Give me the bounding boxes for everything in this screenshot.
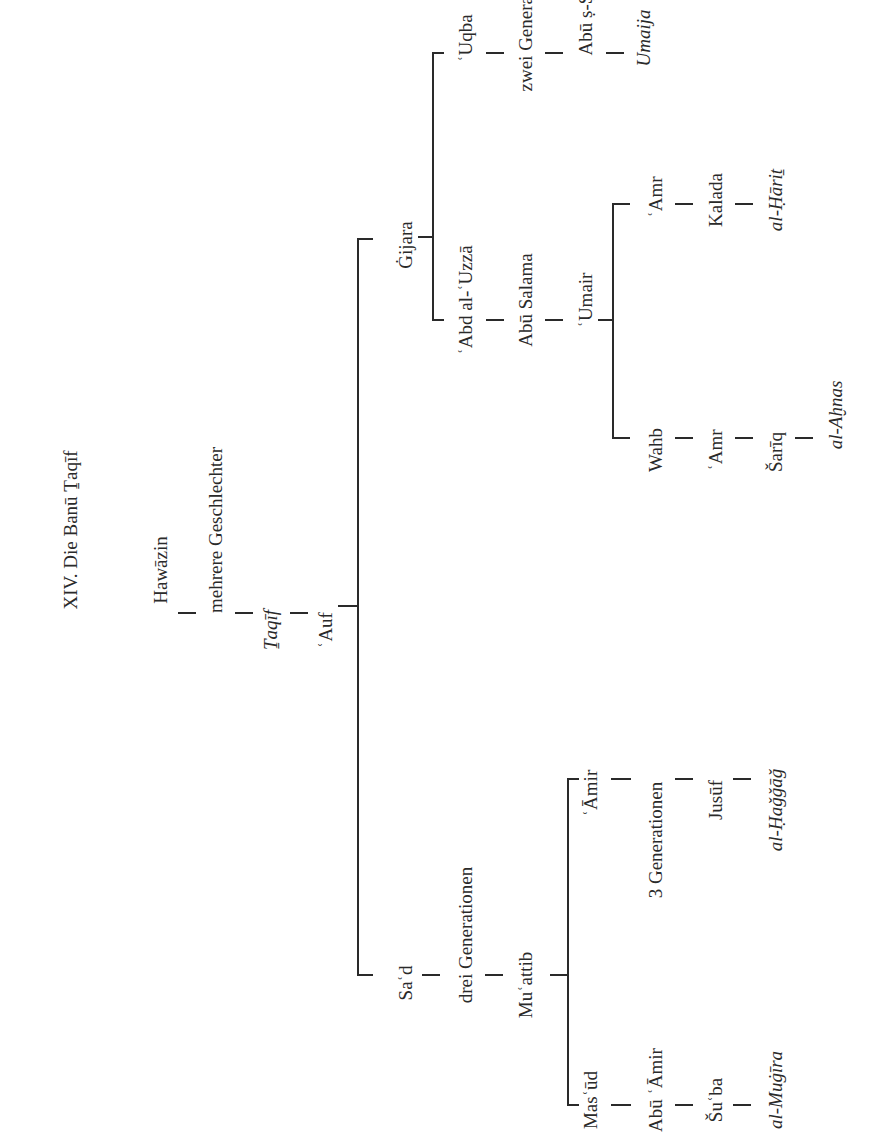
connector: [612, 203, 630, 205]
umair-bracket: [612, 203, 614, 438]
node-amr-2: ʿAmr: [706, 429, 725, 470]
node-zwei-generationen: zwei Generationen: [516, 0, 535, 91]
connector: [290, 612, 308, 614]
node-jusuf: Jusūf: [706, 780, 725, 820]
connector: [545, 52, 563, 54]
connector: [598, 319, 612, 321]
diagram-title: XIV. Die Banū Ṯaqīf: [61, 450, 80, 609]
connector: [675, 437, 693, 439]
node-hawazin: Hawāzin: [151, 536, 170, 604]
node-kalada: Kalada: [706, 173, 725, 227]
node-uqba: ʿUqba: [456, 14, 475, 61]
node-umair: ʿUmair: [576, 273, 595, 328]
connector: [357, 238, 373, 240]
node-al-haggag: al-Ḥaǧǧāǧ: [766, 769, 785, 851]
connector: [357, 974, 373, 976]
node-amr-1: ʿAmr: [646, 176, 665, 217]
node-sariq: Šarīq: [766, 432, 785, 472]
connector: [795, 437, 813, 439]
node-gijara: Ġijara: [396, 221, 415, 268]
connector: [422, 974, 440, 976]
node-al-mugira: al-Muġīra: [766, 1051, 785, 1129]
node-drei-generationen: drei Generationen: [456, 867, 475, 1004]
connector: [611, 1104, 631, 1106]
connector: [675, 778, 693, 780]
node-sad: Saʿd: [396, 966, 415, 1001]
node-al-ahnas: al-Aḫnas: [826, 381, 845, 450]
connector: [486, 52, 504, 54]
node-mehrere-geschlechter: mehrere Geschlechter: [206, 447, 225, 613]
connector: [432, 52, 444, 54]
connector: [338, 605, 357, 607]
gijara-bracket: [432, 52, 434, 320]
connector: [611, 778, 631, 780]
node-auf: ʿAuf: [316, 612, 335, 648]
connector: [675, 1104, 693, 1106]
connector: [486, 319, 504, 321]
auf-bracket: [357, 238, 359, 975]
node-al-harit: al-Ḥāriṯ: [766, 169, 785, 231]
node-amir: ʿĀmir: [581, 770, 600, 816]
node-abu-amir: Abū ʿĀmir: [646, 1048, 665, 1132]
connector: [733, 778, 751, 780]
connector: [735, 437, 753, 439]
connector: [545, 319, 563, 321]
connector: [567, 1104, 579, 1106]
node-umaija: Umaija: [634, 10, 653, 67]
connector: [550, 974, 567, 976]
node-abd-al-uzza: ʿAbd al-ʿUzzā: [456, 245, 475, 354]
connector: [235, 612, 253, 614]
connector: [418, 236, 432, 238]
node-abu-salama: Abū Salama: [516, 253, 535, 346]
node-suba: Šuʿba: [706, 1078, 725, 1122]
node-masud: Masʿūd: [581, 1071, 600, 1129]
node-abu-s-salt: Abū ṣ-Ṣalt: [576, 0, 595, 55]
node-taqif: Ṯaqīf: [261, 610, 280, 650]
connector: [485, 974, 503, 976]
connector: [178, 612, 196, 614]
connector: [735, 203, 753, 205]
node-3-generationen: 3 Generationen: [646, 782, 665, 899]
connector: [675, 203, 693, 205]
connector: [567, 778, 579, 780]
muattib-bracket: [567, 778, 569, 1105]
connector: [733, 1104, 751, 1106]
connector: [612, 437, 630, 439]
connector: [432, 319, 444, 321]
node-muattib: Muʿattib: [516, 952, 535, 1019]
connector: [606, 52, 624, 54]
node-wahb: Wahb: [646, 428, 665, 472]
